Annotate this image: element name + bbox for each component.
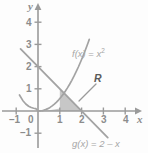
graph-figure: y x –1 0 1 2 3 4 –1 1 2 3 4 f(x) = x2 g(… (0, 0, 148, 153)
y-tick-label-2: 2 (26, 62, 32, 72)
x-tick-label-4: 4 (123, 115, 129, 125)
function-label-g: g(x) = 2 – x (72, 139, 120, 149)
region-label-leader-line (79, 84, 96, 101)
function-label-f-exponent: 2 (101, 47, 105, 54)
function-label-g-name: g(x) (72, 138, 88, 149)
y-tick-label-neg1: –1 (20, 128, 31, 138)
function-label-g-equals: = (88, 138, 99, 149)
x-tick-label-1: 1 (57, 115, 63, 125)
x-axis-letter: x (137, 114, 143, 125)
y-tick-label-4: 4 (26, 18, 32, 28)
x-tick-label-2: 2 (79, 115, 85, 125)
function-label-f: f(x) = x2 (72, 49, 105, 59)
function-label-g-rhs: 2 – x (99, 138, 120, 149)
x-tick-label-neg1: –1 (9, 115, 20, 125)
y-tick-label-1: 1 (26, 84, 32, 94)
function-label-f-name: f(x) (72, 48, 86, 59)
x-tick-label-3: 3 (101, 115, 107, 125)
function-label-f-equals: = (86, 48, 97, 59)
origin-label: 0 (28, 115, 34, 125)
region-label-R: R (94, 73, 102, 84)
y-axis-letter: y (28, 1, 33, 12)
y-tick-label-3: 3 (26, 40, 32, 50)
y-axis-arrow (35, 3, 42, 10)
